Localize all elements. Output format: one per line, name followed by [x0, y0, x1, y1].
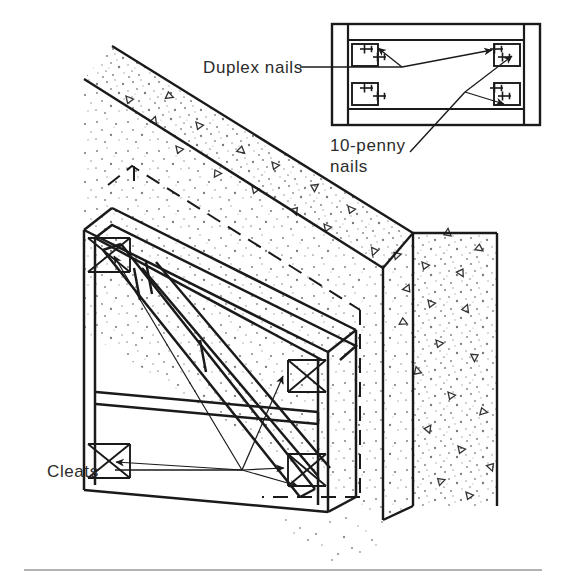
wall-right-face [413, 233, 497, 506]
form-depth-bot-right [328, 497, 356, 512]
form-sill-front [84, 490, 328, 512]
inset-detail-box [300, 24, 540, 152]
label-duplex-nails: Duplex nails [203, 57, 303, 78]
cleats-arrow-bottom-left [116, 462, 242, 470]
wall-right-return [383, 233, 413, 520]
label-ten-penny-line1: 10-penny [330, 136, 406, 155]
diagonal-brace-main-end [300, 489, 315, 497]
concrete-spray-lower [285, 517, 383, 561]
cleats-arrow-extra [242, 470, 298, 486]
label-cleats: Cleats [47, 461, 99, 482]
figure-page: Duplex nails 10-penny nails Cleats [0, 0, 566, 583]
label-ten-penny-nails: 10-penny nails [330, 135, 450, 177]
technical-illustration [0, 0, 566, 583]
label-ten-penny-line2: nails [330, 157, 368, 176]
